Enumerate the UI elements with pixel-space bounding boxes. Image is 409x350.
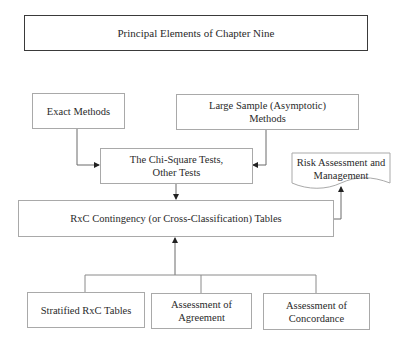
node-label-line1: Assessment of	[286, 299, 347, 312]
edge-exact-to-chisquare	[77, 128, 99, 165]
node-label: Exact Methods	[47, 105, 110, 118]
edge-rxc-to-risk	[333, 187, 341, 219]
node-label-line1: The Chi-Square Tests,	[130, 153, 223, 166]
node-rxc-contingency-tables: RxC Contingency (or Cross-Classification…	[18, 200, 334, 237]
node-label-line2: Management	[314, 169, 369, 182]
chapter-title-box: Principal Elements of Chapter Nine	[24, 15, 368, 51]
node-label: Stratified RxC Tables	[41, 304, 132, 317]
node-large-sample-methods: Large Sample (Asymptotic) Methods	[176, 94, 359, 130]
node-label-line2: Agreement	[178, 311, 225, 324]
edge-largesample-to-chisquare	[253, 129, 266, 165]
node-chi-square-tests: The Chi-Square Tests, Other Tests	[100, 148, 253, 184]
node-assessment-of-agreement: Assessment of Agreement	[151, 293, 252, 329]
chapter-title: Principal Elements of Chapter Nine	[117, 27, 274, 40]
node-assessment-of-concordance: Assessment of Concordance	[263, 293, 370, 330]
node-label-line2: Other Tests	[153, 166, 201, 179]
node-label-line2: Methods	[249, 112, 286, 125]
node-exact-methods: Exact Methods	[32, 93, 125, 129]
node-label-line2: Concordance	[289, 312, 344, 325]
node-label-line1: Risk Assessment and	[297, 156, 386, 169]
node-label-line1: Large Sample (Asymptotic)	[209, 99, 326, 112]
node-label-line1: Assessment of	[171, 298, 232, 311]
node-label: RxC Contingency (or Cross-Classification…	[70, 212, 281, 225]
node-stratified-rxc-tables: Stratified RxC Tables	[27, 292, 145, 328]
node-risk-assessment: Risk Assessment and Management	[292, 155, 390, 183]
